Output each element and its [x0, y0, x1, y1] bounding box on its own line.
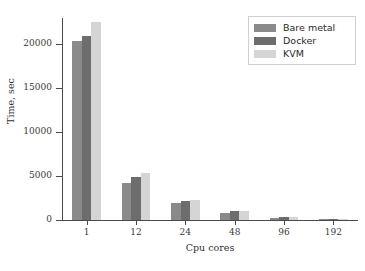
x-axis-tick	[284, 221, 285, 225]
x-axis-tick-label: 48	[229, 227, 240, 237]
legend-item-label: Bare metal	[283, 22, 335, 33]
x-axis-tick	[185, 221, 186, 225]
x-axis-tick-label: 96	[278, 227, 289, 237]
legend-swatch-icon	[254, 37, 276, 45]
legend-swatch-icon	[254, 24, 276, 32]
bar	[141, 173, 151, 220]
bar	[329, 219, 339, 220]
legend-item[interactable]: KVM	[254, 47, 350, 60]
bar	[338, 219, 348, 220]
x-axis-tick	[136, 221, 137, 225]
x-axis-tick-label: 12	[130, 227, 141, 237]
x-axis-title: Cpu cores	[62, 243, 358, 253]
x-axis-tick	[333, 221, 334, 225]
bar	[270, 218, 280, 220]
bar	[279, 217, 289, 220]
bar	[72, 41, 82, 220]
legend-item-label: Docker	[283, 35, 316, 46]
bar	[181, 201, 191, 220]
x-axis-tick-label: 1	[84, 227, 90, 237]
y-axis-title: Time, sec	[6, 56, 16, 146]
x-axis-tick	[87, 221, 88, 225]
y-axis-tick-label: 15000	[23, 83, 52, 92]
bar	[230, 211, 240, 220]
bar	[82, 36, 92, 220]
bar	[91, 22, 101, 220]
y-axis-tick-label: 20000	[23, 39, 52, 48]
bar	[220, 213, 230, 220]
bar	[289, 217, 299, 220]
y-axis-tick-label: 0	[46, 215, 52, 224]
bar	[319, 219, 329, 220]
x-axis-line	[62, 220, 358, 221]
chart-legend: Bare metalDockerKVM	[248, 16, 356, 65]
x-axis-tick	[235, 221, 236, 225]
x-axis-tick-label: 192	[325, 227, 342, 237]
bar	[239, 211, 249, 220]
bar	[122, 183, 132, 220]
y-axis-tick-label: 5000	[29, 171, 52, 180]
y-axis-tick-label: 10000	[23, 127, 52, 136]
legend-item[interactable]: Docker	[254, 34, 350, 47]
bar-chart-figure: Time, sec 05000100001500020000 112244896…	[0, 0, 365, 271]
legend-item-label: KVM	[283, 48, 304, 59]
bar	[171, 203, 181, 220]
legend-swatch-icon	[254, 50, 276, 58]
bar	[190, 200, 200, 220]
bar	[131, 177, 141, 220]
x-axis-tick-label: 24	[180, 227, 191, 237]
legend-item[interactable]: Bare metal	[254, 21, 350, 34]
